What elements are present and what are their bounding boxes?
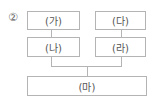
box-ga-label: (가) [45,13,62,28]
box-ga: (가) [27,11,80,30]
box-ma-label: (마) [79,79,96,94]
connector-da-ra [121,30,122,37]
connector-ga-na [51,30,52,37]
box-ma: (마) [27,76,147,96]
box-na-label: (나) [45,40,62,55]
connector-to-ma [87,66,88,76]
box-da: (다) [95,11,146,30]
box-ra: (라) [95,37,146,57]
box-ra-label: (라) [112,40,129,55]
option-number: ② [8,12,18,23]
box-da-label: (다) [112,13,129,28]
box-na: (나) [27,37,80,57]
